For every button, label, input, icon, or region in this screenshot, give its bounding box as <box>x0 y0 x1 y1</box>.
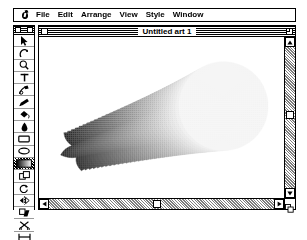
tool-palette-close-icon[interactable] <box>15 27 21 33</box>
tool-grid <box>14 35 34 219</box>
document-titlebar[interactable]: Untitled art 1 <box>39 26 295 37</box>
pencil-icon <box>19 98 30 107</box>
document-window: Untitled art 1 <box>38 25 296 210</box>
tool-palette-zoom-icon[interactable] <box>27 27 33 33</box>
magnifier-icon <box>19 60 29 70</box>
scroll-down-arrow[interactable] <box>285 188 295 198</box>
tool-direct-selection[interactable] <box>14 47 34 59</box>
blend-gradient-icon <box>16 159 32 168</box>
scroll-right-arrow[interactable] <box>274 199 284 209</box>
paint-bucket-icon <box>19 110 30 119</box>
menu-item-file[interactable]: File <box>32 10 54 20</box>
menu-item-arrange[interactable]: Arrange <box>77 10 116 20</box>
tool-type[interactable] <box>14 72 34 84</box>
pen-nib-icon <box>19 85 30 95</box>
text-t-icon <box>20 73 29 82</box>
menu-item-edit[interactable]: Edit <box>54 10 77 20</box>
tool-freehand[interactable] <box>14 96 34 108</box>
dither-overlay <box>39 37 284 198</box>
tool-paint-bucket[interactable] <box>14 109 34 121</box>
eyedropper-icon <box>21 122 28 132</box>
scale-icon <box>19 171 30 180</box>
horizontal-scroll-thumb[interactable] <box>153 200 161 208</box>
rectangle-icon <box>18 135 30 143</box>
vertical-scrollbar[interactable] <box>284 37 295 198</box>
tool-palette-titlebar[interactable] <box>14 26 34 35</box>
arrow-icon <box>20 36 29 46</box>
menu-bar: File Edit Arrange View Style Window <box>13 8 296 22</box>
document-title: Untitled art 1 <box>138 27 197 36</box>
tool-eyedropper[interactable] <box>14 121 34 133</box>
hollow-arrow-icon <box>19 48 29 58</box>
rotate-icon <box>19 184 29 193</box>
tool-oval[interactable] <box>14 146 34 158</box>
vertical-scroll-thumb[interactable] <box>286 111 294 119</box>
apple-icon <box>22 12 28 19</box>
tool-rectangle[interactable] <box>14 133 34 145</box>
reflect-icon <box>19 196 30 205</box>
tool-reflect[interactable] <box>14 195 34 207</box>
document-close-icon[interactable] <box>41 28 48 35</box>
tool-rotate[interactable] <box>14 183 34 195</box>
document-zoom-icon[interactable] <box>286 28 293 35</box>
menu-item-view[interactable]: View <box>116 10 142 20</box>
ellipse-icon <box>18 147 30 155</box>
shear-icon <box>19 208 30 217</box>
tool-scale[interactable] <box>14 170 34 182</box>
horizontal-scrollbar[interactable] <box>39 198 284 209</box>
tool-shear[interactable] <box>14 207 34 219</box>
scroll-left-arrow[interactable] <box>39 199 49 209</box>
menu-item-style[interactable]: Style <box>142 10 169 20</box>
canvas-area[interactable] <box>39 37 284 198</box>
tool-zoom[interactable] <box>14 60 34 72</box>
scroll-up-arrow[interactable] <box>285 37 295 47</box>
tool-blend[interactable] <box>14 158 34 170</box>
menu-item-window[interactable]: Window <box>169 10 208 20</box>
tool-pen[interactable] <box>14 84 34 96</box>
screen: File Edit Arrange View Style Window <box>0 0 307 219</box>
tool-palette <box>13 25 35 210</box>
apple-menu-icon[interactable] <box>17 12 32 19</box>
artwork-blend[interactable] <box>39 37 284 198</box>
tool-selection-arrow[interactable] <box>14 35 34 47</box>
window-resize-grow-box[interactable] <box>284 198 295 209</box>
